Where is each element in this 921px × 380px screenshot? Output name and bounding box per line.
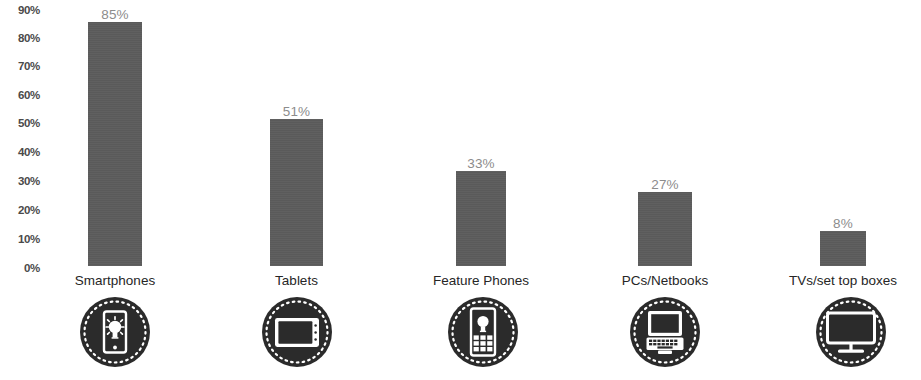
y-axis-tick-10: 10%: [0, 233, 40, 245]
bar-group-tvs-set-top-boxes: 8% TVs/set top boxes: [820, 0, 866, 290]
television-icon: [815, 296, 887, 368]
bar-value-tablets: 51%: [248, 104, 345, 119]
y-axis-tick-40: 40%: [0, 146, 40, 158]
bar-group-pcs-netbooks: 27% PCs/Netbooks: [638, 0, 692, 290]
bar-value-feature-phones: 33%: [434, 156, 528, 171]
bar-chart: 90% 80% 70% 60% 50% 40% 30% 20% 10% 0% 8…: [0, 0, 921, 380]
bar-value-tvs-set-top-boxes: 8%: [798, 216, 888, 231]
bar-pcs-netbooks[interactable]: [638, 192, 692, 266]
plot-area: 85% Smartphones 51% Tablets 33% Feature …: [46, 0, 921, 290]
smartphone-lightbulb-icon: [79, 296, 151, 368]
feature-phone-lightbulb-icon: [447, 296, 519, 368]
bar-smartphones[interactable]: [88, 22, 142, 266]
bar-tablets[interactable]: [270, 119, 323, 266]
bar-group-feature-phones: 33% Feature Phones: [456, 0, 506, 290]
bar-feature-phones[interactable]: [456, 171, 506, 266]
tablet-icon: [261, 296, 333, 368]
y-axis-tick-30: 30%: [0, 175, 40, 187]
bar-value-smartphones: 85%: [66, 7, 164, 22]
laptop-icon: [629, 296, 701, 368]
bar-value-pcs-netbooks: 27%: [616, 177, 714, 192]
bar-tvs-set-top-boxes[interactable]: [820, 231, 866, 266]
category-label-tvs-set-top-boxes: TVs/set top boxes: [730, 273, 921, 289]
y-axis-tick-90: 90%: [0, 4, 40, 16]
y-axis-tick-70: 70%: [0, 60, 40, 72]
y-axis-tick-20: 20%: [0, 204, 40, 216]
bar-group-smartphones: 85% Smartphones: [88, 0, 142, 290]
y-axis-tick-60: 60%: [0, 89, 40, 101]
bar-group-tablets: 51% Tablets: [270, 0, 323, 290]
y-axis-tick-50: 50%: [0, 117, 40, 129]
y-axis: 90% 80% 70% 60% 50% 40% 30% 20% 10% 0%: [0, 0, 46, 280]
y-axis-tick-80: 80%: [0, 32, 40, 44]
